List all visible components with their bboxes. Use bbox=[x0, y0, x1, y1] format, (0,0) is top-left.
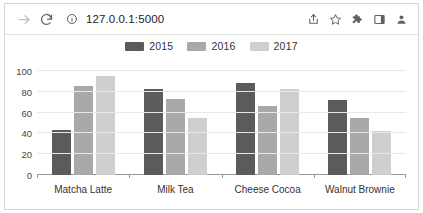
legend-item-2017[interactable]: 2017 bbox=[250, 40, 298, 52]
bar-group-walnut-brownie: Walnut Brownie bbox=[314, 71, 406, 175]
browser-toolbar: 127.0.0.1:5000 bbox=[5, 4, 418, 35]
bar-2016-milk-tea[interactable] bbox=[166, 99, 185, 175]
x-axis-tickmark bbox=[129, 175, 130, 178]
legend-label-2016: 2016 bbox=[211, 40, 235, 52]
url-text: 127.0.0.1:5000 bbox=[86, 13, 164, 25]
bar-group-cheese-cocoa: Cheese Cocoa bbox=[222, 71, 314, 175]
y-axis-tick-label: 20 bbox=[21, 149, 32, 160]
x-axis-tickmark bbox=[37, 175, 38, 178]
y-axis-tick-label: 60 bbox=[21, 107, 32, 118]
x-axis-category-label: Cheese Cocoa bbox=[222, 184, 314, 195]
toolbar-icon-group bbox=[303, 9, 412, 30]
gridline bbox=[37, 132, 406, 133]
legend-label-2015: 2015 bbox=[149, 40, 173, 52]
y-axis-tick-label: 100 bbox=[16, 66, 32, 77]
legend-label-2017: 2017 bbox=[274, 40, 298, 52]
bar-2015-cheese-cocoa[interactable] bbox=[236, 83, 255, 175]
x-axis-tickmark bbox=[314, 175, 315, 178]
bar-2017-milk-tea[interactable] bbox=[188, 118, 207, 175]
forward-arrow-icon[interactable] bbox=[13, 8, 35, 30]
y-axis-tick-label: 80 bbox=[21, 86, 32, 97]
star-icon[interactable] bbox=[325, 9, 346, 30]
info-circle-icon[interactable] bbox=[63, 10, 81, 28]
bar-2016-cheese-cocoa[interactable] bbox=[258, 106, 277, 175]
reload-icon[interactable] bbox=[35, 8, 57, 30]
x-axis-tickmark bbox=[405, 175, 406, 178]
page-content: 201520162017 Matcha LatteMilk TeaCheese … bbox=[5, 35, 418, 209]
gridline bbox=[37, 70, 406, 71]
share-icon[interactable] bbox=[303, 9, 324, 30]
y-axis-tick-label: 40 bbox=[21, 128, 32, 139]
legend-item-2016[interactable]: 2016 bbox=[187, 40, 235, 52]
puzzle-piece-icon[interactable] bbox=[347, 9, 368, 30]
x-axis-category-label: Matcha Latte bbox=[37, 184, 129, 195]
gridline bbox=[37, 174, 406, 175]
bar-groups: Matcha LatteMilk TeaCheese CocoaWalnut B… bbox=[37, 71, 406, 175]
bar-2016-walnut-brownie[interactable] bbox=[350, 118, 369, 175]
profile-avatar-icon[interactable] bbox=[391, 9, 412, 30]
bar-group-milk-tea: Milk Tea bbox=[129, 71, 221, 175]
y-axis-tick-label: 0 bbox=[27, 170, 32, 181]
plot-area: Matcha LatteMilk TeaCheese CocoaWalnut B… bbox=[37, 71, 406, 175]
legend-swatch-2016 bbox=[187, 42, 206, 51]
x-axis-tickmark bbox=[222, 175, 223, 178]
address-bar[interactable]: 127.0.0.1:5000 bbox=[63, 8, 303, 30]
bar-group-matcha-latte: Matcha Latte bbox=[37, 71, 129, 175]
chart-legend: 201520162017 bbox=[5, 40, 418, 52]
gridline bbox=[37, 153, 406, 154]
x-axis-category-label: Walnut Brownie bbox=[314, 184, 406, 195]
legend-item-2015[interactable]: 2015 bbox=[125, 40, 173, 52]
legend-swatch-2015 bbox=[125, 42, 144, 51]
browser-window: 127.0.0.1:5000 bbox=[4, 3, 419, 210]
side-panel-icon[interactable] bbox=[369, 9, 390, 30]
bar-chart: Matcha LatteMilk TeaCheese CocoaWalnut B… bbox=[5, 59, 418, 209]
gridline bbox=[37, 91, 406, 92]
gridline bbox=[37, 112, 406, 113]
legend-swatch-2017 bbox=[250, 42, 269, 51]
bar-2016-matcha-latte[interactable] bbox=[74, 86, 93, 175]
x-axis-category-label: Milk Tea bbox=[129, 184, 221, 195]
